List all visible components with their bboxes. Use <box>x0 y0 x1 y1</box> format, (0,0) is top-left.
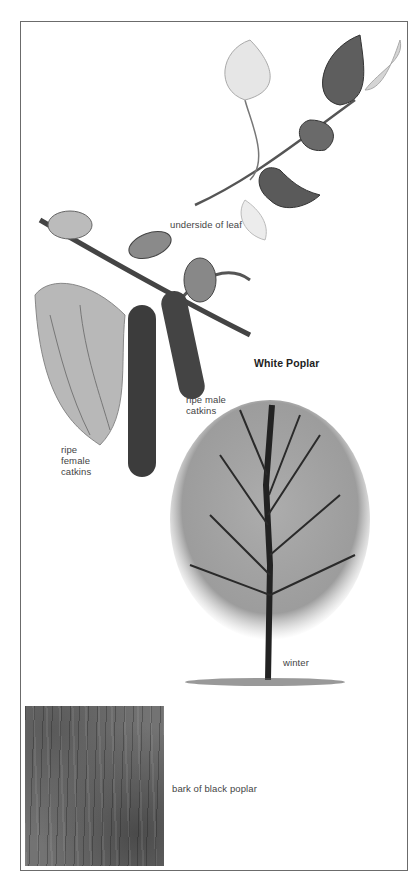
female-label-line-3: catkins <box>61 466 91 477</box>
winter-tree-illustration <box>170 395 375 690</box>
plate-title: White Poplar <box>254 358 319 369</box>
bark-photo <box>25 706 164 866</box>
female-label-line-2: female <box>61 455 91 466</box>
female-label-line-1: ripe <box>61 444 91 455</box>
female-catkins-label: ripe female catkins <box>61 444 91 477</box>
bark-label: bark of black poplar <box>172 783 257 794</box>
winter-label: winter <box>283 657 309 668</box>
